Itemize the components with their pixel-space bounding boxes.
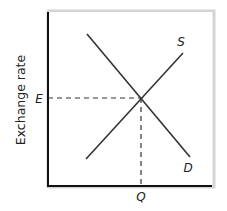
supply-demand-chart xyxy=(0,0,227,211)
supply-curve-label: S xyxy=(177,35,185,49)
equilibrium-quantity-label: Q xyxy=(136,190,145,204)
y-axis-label: Exchange rate xyxy=(13,55,28,145)
equilibrium-price-label: E xyxy=(35,92,43,106)
plot-area xyxy=(48,12,212,186)
demand-curve-label: D xyxy=(183,161,192,175)
